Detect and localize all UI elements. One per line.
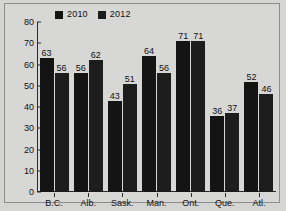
bar-2012-Que.[interactable]: 37 bbox=[225, 113, 239, 192]
chart-legend: 2010 2012 bbox=[55, 10, 131, 19]
bar-2012-Alb.[interactable]: 62 bbox=[89, 60, 103, 192]
bar-2012-Sask.[interactable]: 51 bbox=[123, 84, 137, 192]
bar-2010-Que.[interactable]: 36 bbox=[210, 116, 224, 193]
bar-2012-B.C.[interactable]: 56 bbox=[55, 73, 69, 192]
y-axis-tick-label: 60 bbox=[24, 60, 34, 70]
bar-2010-Man.[interactable]: 64 bbox=[142, 56, 156, 192]
bar-group: 6456 bbox=[142, 22, 171, 192]
y-axis-tick-label: 50 bbox=[24, 81, 34, 91]
bar-group: 7171 bbox=[176, 22, 205, 192]
legend-label-2010: 2010 bbox=[67, 10, 88, 19]
bar-2012-Man.[interactable]: 56 bbox=[157, 73, 171, 192]
x-axis-tick-mark bbox=[225, 193, 226, 197]
x-axis-label-Ont.: Ont. bbox=[182, 198, 199, 208]
legend-item-2012: 2012 bbox=[98, 10, 131, 19]
bar-2010-B.C.[interactable]: 63 bbox=[40, 58, 54, 192]
bar-2010-Sask.[interactable]: 43 bbox=[108, 101, 122, 192]
bar-value-label: 36 bbox=[212, 106, 222, 116]
bar-2010-Alb.[interactable]: 56 bbox=[74, 73, 88, 192]
bar-group: 5246 bbox=[244, 22, 273, 192]
y-axis: 01020304050607080 bbox=[5, 4, 37, 193]
bar-value-label: 62 bbox=[91, 50, 101, 60]
bar-value-label: 46 bbox=[261, 84, 271, 94]
bar-value-label: 71 bbox=[193, 31, 203, 41]
legend-item-2010: 2010 bbox=[55, 10, 88, 19]
y-axis-tick-label: 70 bbox=[24, 38, 34, 48]
x-axis-label-B.C.: B.C. bbox=[45, 198, 63, 208]
x-axis-tick-mark bbox=[54, 193, 55, 197]
y-axis-tick-label: 10 bbox=[24, 166, 34, 176]
y-axis-tick-label: 40 bbox=[24, 102, 34, 112]
y-axis-tick-label: 80 bbox=[24, 17, 34, 27]
bar-value-label: 43 bbox=[110, 91, 120, 101]
x-axis-tick-mark bbox=[259, 193, 260, 197]
bar-2012-Ont.[interactable]: 71 bbox=[191, 41, 205, 192]
bar-value-label: 37 bbox=[227, 103, 237, 113]
bar-2010-Ont.[interactable]: 71 bbox=[176, 41, 190, 192]
x-axis-tick-mark bbox=[191, 193, 192, 197]
x-axis-label-Sask.: Sask. bbox=[111, 198, 134, 208]
bar-2012-Atl.[interactable]: 46 bbox=[259, 94, 273, 192]
bar-group: 3637 bbox=[210, 22, 239, 192]
legend-label-2012: 2012 bbox=[110, 10, 131, 19]
x-axis-tick-mark bbox=[88, 193, 89, 197]
bar-value-label: 71 bbox=[178, 31, 188, 41]
chart-frame: 2010 2012 01020304050607080 6356B.C.5662… bbox=[4, 3, 280, 203]
bar-2010-Atl.[interactable]: 52 bbox=[244, 82, 258, 193]
bar-value-label: 56 bbox=[159, 63, 169, 73]
x-axis-label-Man.: Man. bbox=[146, 198, 166, 208]
legend-swatch-2010 bbox=[55, 11, 63, 19]
x-axis-label-Alb.: Alb. bbox=[80, 198, 96, 208]
x-axis-tick-mark bbox=[122, 193, 123, 197]
bar-value-label: 64 bbox=[144, 46, 154, 56]
y-axis-tick-label: 0 bbox=[29, 187, 34, 197]
bar-value-label: 51 bbox=[125, 74, 135, 84]
x-axis-label-Atl.: Atl. bbox=[252, 198, 265, 208]
bar-value-label: 63 bbox=[42, 48, 52, 58]
bar-group: 6356 bbox=[40, 22, 69, 192]
chart-figure: 2010 2012 01020304050607080 6356B.C.5662… bbox=[0, 0, 286, 211]
bar-group: 5662 bbox=[74, 22, 103, 192]
x-axis-label-Que.: Que. bbox=[215, 198, 235, 208]
x-axis-tick-mark bbox=[157, 193, 158, 197]
bar-group: 4351 bbox=[108, 22, 137, 192]
legend-swatch-2012 bbox=[98, 11, 106, 19]
bar-value-label: 56 bbox=[76, 63, 86, 73]
bar-value-label: 56 bbox=[57, 63, 67, 73]
y-axis-tick-label: 20 bbox=[24, 145, 34, 155]
bar-value-label: 52 bbox=[246, 72, 256, 82]
y-axis-tick-label: 30 bbox=[24, 123, 34, 133]
